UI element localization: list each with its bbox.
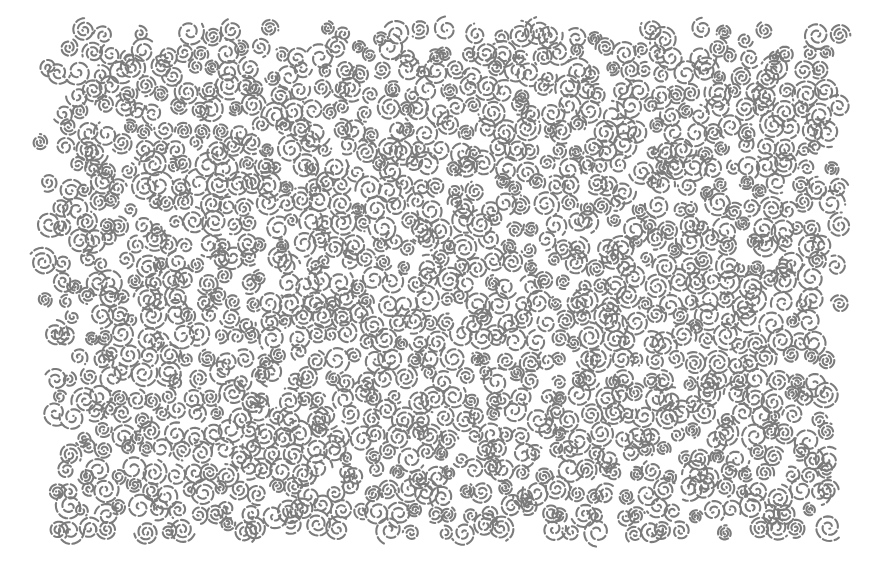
swirl [82, 439, 95, 452]
swirl [336, 28, 350, 42]
swirl [400, 124, 414, 137]
swirl [415, 76, 435, 99]
swirl [284, 516, 300, 534]
swirl [94, 26, 111, 41]
swirl [664, 471, 676, 483]
swirl [757, 464, 774, 479]
swirl [358, 107, 371, 122]
swirl [64, 63, 89, 85]
swirl [453, 412, 475, 431]
swirl [474, 514, 498, 535]
swirl [42, 175, 56, 192]
swirl [757, 22, 772, 38]
swirl [737, 486, 750, 498]
swirl [734, 307, 756, 332]
swirl [514, 465, 529, 479]
swirl [279, 315, 290, 328]
swirl [119, 346, 140, 367]
swirl [759, 197, 783, 218]
swirl [66, 311, 78, 323]
swirl [200, 464, 217, 479]
swirl [95, 443, 111, 457]
swirl [621, 61, 638, 80]
swirl [123, 163, 137, 178]
swirl [194, 47, 208, 59]
swirl [518, 64, 538, 87]
swirl [363, 48, 375, 61]
swirl [671, 139, 697, 163]
swirl [758, 139, 775, 159]
swirl [685, 84, 700, 100]
swirl [331, 213, 356, 235]
swirl [554, 144, 566, 158]
swirl [678, 180, 696, 195]
swirl [449, 98, 465, 114]
swirl [237, 349, 253, 367]
swirl [128, 236, 143, 253]
swirl [739, 124, 755, 142]
swirl [292, 84, 310, 100]
swirl [831, 25, 851, 43]
swirl [169, 465, 185, 484]
swirl [278, 254, 300, 273]
swirl [535, 192, 559, 215]
swirl [230, 102, 242, 115]
swirl [657, 442, 670, 454]
swirl [253, 117, 268, 130]
swirl [736, 218, 749, 230]
swirl [326, 371, 339, 385]
swirl [499, 480, 512, 494]
swirl [31, 248, 56, 274]
swirl [409, 337, 426, 352]
swirl [396, 366, 417, 388]
swirl [579, 322, 603, 348]
swirl [627, 383, 645, 400]
swirl [235, 199, 253, 216]
swirl [749, 262, 764, 276]
swirl [73, 103, 87, 118]
artwork-canvas [0, 0, 888, 562]
swirl [148, 294, 166, 312]
swirl [476, 119, 496, 136]
swirl [189, 405, 206, 422]
swirl [798, 160, 813, 173]
swirl [771, 292, 792, 310]
swirl [403, 526, 418, 539]
swirl [417, 123, 437, 144]
swirl [802, 468, 818, 482]
swirl [252, 424, 277, 448]
swirl [170, 502, 186, 518]
swirl [201, 194, 221, 213]
swirl [356, 215, 370, 231]
swirl [457, 368, 474, 383]
swirl [447, 61, 466, 78]
swirl [647, 355, 663, 369]
swirl [113, 134, 132, 153]
swirl [461, 484, 474, 497]
swirl [163, 388, 176, 403]
swirl [175, 45, 192, 62]
swirl [582, 404, 602, 422]
swirl [466, 182, 483, 201]
swirl [569, 383, 591, 405]
swirl [617, 94, 641, 118]
swirl [95, 96, 113, 112]
swirl [134, 523, 156, 543]
swirl [391, 466, 404, 478]
swirl [79, 185, 92, 196]
swirl [115, 365, 132, 380]
swirl [154, 439, 172, 456]
swirl [387, 195, 405, 214]
swirl [700, 334, 712, 348]
swirl [719, 237, 736, 255]
swirl [795, 61, 814, 78]
swirl [439, 431, 458, 449]
swirl [804, 503, 815, 516]
swirl [674, 308, 688, 324]
swirl [695, 253, 712, 270]
swirl [672, 429, 684, 441]
swirl [295, 233, 316, 257]
swirl [449, 186, 463, 198]
swirl [285, 214, 298, 225]
swirl [634, 43, 647, 57]
